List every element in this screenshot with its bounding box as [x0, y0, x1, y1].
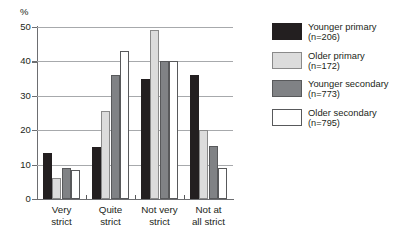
legend-label: Older primary(n=172) — [308, 50, 365, 73]
x-axis-category-label: Quitestrict — [86, 204, 135, 227]
y-axis-tick-label: 20 — [20, 125, 31, 135]
legend-label: Younger secondary(n=773) — [308, 78, 388, 101]
bar-group — [184, 27, 233, 199]
legend-item[interactable]: Older primary(n=172) — [272, 51, 400, 76]
y-axis-tick-mark — [32, 199, 37, 200]
bar — [169, 61, 178, 199]
legend-label-count: (n=795) — [308, 118, 377, 129]
bar-group — [86, 27, 135, 199]
bar — [111, 75, 120, 199]
bar — [209, 146, 218, 199]
bar — [199, 130, 208, 199]
x-axis-category-label-line: strict — [135, 216, 184, 228]
bar-group — [135, 27, 184, 199]
x-axis-category-label-line: strict — [86, 216, 135, 228]
y-axis-tick-label: 0 — [26, 194, 31, 204]
plot-area — [37, 27, 233, 199]
x-axis-category-label-line: Not very — [135, 204, 184, 216]
legend-label-name: Younger secondary — [308, 78, 388, 89]
legend-label-count: (n=773) — [308, 89, 388, 100]
y-axis-tick-mark — [32, 61, 37, 62]
bar — [120, 51, 129, 199]
legend-swatch — [272, 23, 302, 40]
y-axis-tick-mark — [32, 165, 37, 166]
legend-label-name: Older primary — [308, 50, 365, 61]
y-axis-tick-mark — [32, 27, 37, 28]
bar — [160, 61, 169, 199]
x-axis-line — [37, 199, 234, 200]
bar-group — [37, 27, 86, 199]
group-divider-tick — [135, 195, 136, 199]
y-axis-tick-mark — [32, 130, 37, 131]
group-divider-tick — [184, 195, 185, 199]
bar — [141, 79, 150, 199]
x-axis-category-label-line: all strict — [184, 216, 233, 228]
bar — [150, 30, 159, 199]
x-axis-category-label: Not verystrict — [135, 204, 184, 227]
bar — [92, 147, 101, 199]
bar — [43, 153, 52, 199]
bar-chart: % 01020304050 Younger primary(n=206)Olde… — [0, 0, 400, 251]
legend-label-count: (n=206) — [308, 32, 376, 43]
legend-swatch — [272, 109, 302, 126]
y-axis-tick-label: 40 — [20, 56, 31, 66]
bar — [101, 111, 110, 199]
x-axis-category-label-line: strict — [37, 216, 86, 228]
x-axis-category-label: Verystrict — [37, 204, 86, 227]
legend-item[interactable]: Younger secondary(n=773) — [272, 79, 400, 104]
legend-label-count: (n=172) — [308, 61, 365, 72]
group-divider-tick — [86, 195, 87, 199]
bar — [218, 168, 227, 199]
y-axis-tick-mark — [32, 96, 37, 97]
legend-label-name: Younger primary — [308, 21, 376, 32]
legend-swatch — [272, 52, 302, 69]
legend-label: Older secondary(n=795) — [308, 107, 377, 130]
legend-label-name: Older secondary — [308, 107, 377, 118]
bar — [52, 178, 61, 199]
x-axis-category-label-line: Not at — [184, 204, 233, 216]
legend-label: Younger primary(n=206) — [308, 21, 376, 44]
y-axis-tick-labels: 01020304050 — [0, 0, 31, 251]
legend-swatch — [272, 80, 302, 97]
x-axis-category-label-line: Quite — [86, 204, 135, 216]
chart-legend: Younger primary(n=206)Older primary(n=17… — [272, 22, 400, 136]
x-axis-category-label-line: Very — [37, 204, 86, 216]
bar — [62, 168, 71, 199]
x-axis-category-label: Not atall strict — [184, 204, 233, 227]
legend-item[interactable]: Older secondary(n=795) — [272, 108, 400, 133]
legend-item[interactable]: Younger primary(n=206) — [272, 22, 400, 47]
y-axis-tick-label: 50 — [20, 22, 31, 32]
y-axis-tick-label: 30 — [20, 91, 31, 101]
bar — [71, 170, 80, 199]
bar — [190, 75, 199, 199]
y-axis-tick-label: 10 — [20, 160, 31, 170]
